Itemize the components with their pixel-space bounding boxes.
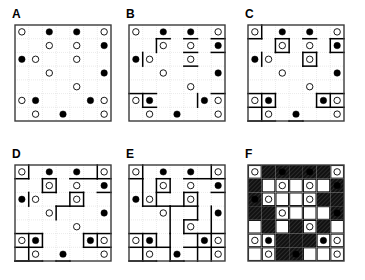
- dot-filled: [306, 29, 312, 35]
- dot-filled: [101, 210, 107, 216]
- dot-open: [306, 83, 312, 89]
- dot-filled: [215, 210, 221, 216]
- dot-filled: [19, 196, 25, 202]
- dot-filled: [60, 251, 66, 257]
- dot-open: [146, 196, 152, 202]
- dot-filled: [101, 42, 107, 48]
- dot-filled: [46, 169, 52, 175]
- dot-open: [265, 56, 271, 62]
- dot-filled: [101, 182, 107, 188]
- dot-open: [101, 251, 107, 257]
- dot-filled: [87, 97, 93, 103]
- dot-filled: [73, 169, 79, 175]
- dot-open: [160, 42, 166, 48]
- dot-open: [32, 56, 38, 62]
- dot-open: [32, 196, 38, 202]
- dot-open: [46, 182, 52, 188]
- dot-open: [73, 196, 79, 202]
- dot-open: [252, 169, 258, 175]
- dot-filled: [160, 169, 166, 175]
- dot-open: [73, 56, 79, 62]
- dot-filled: [201, 97, 207, 103]
- dot-open: [334, 251, 340, 257]
- dot-open: [160, 182, 166, 188]
- grid-d: ab: [14, 164, 112, 262]
- dot-open: [146, 111, 152, 117]
- dot-open: [146, 56, 152, 62]
- dot-open: [279, 210, 285, 216]
- dot-filled: [293, 251, 299, 257]
- dot-open: [160, 210, 166, 216]
- dot-open: [19, 29, 25, 35]
- dot-filled: [215, 182, 221, 188]
- dot-open: [187, 42, 193, 48]
- dot-filled: [101, 70, 107, 76]
- grid-a: [14, 24, 112, 122]
- dot-filled: [320, 237, 326, 243]
- dot-open: [73, 83, 79, 89]
- dot-filled: [32, 97, 38, 103]
- panel-label-b: B: [126, 8, 135, 20]
- panel-label-a: A: [12, 8, 21, 20]
- dot-open: [306, 223, 312, 229]
- panel-d: D ab: [10, 148, 120, 272]
- dot-filled: [187, 29, 193, 35]
- dot-open: [279, 182, 285, 188]
- dot-filled: [87, 237, 93, 243]
- dot-filled: [306, 169, 312, 175]
- dot-open: [133, 97, 139, 103]
- dot-open: [19, 97, 25, 103]
- dot-filled: [265, 237, 271, 243]
- dot-open: [215, 169, 221, 175]
- grid-svg-e: [128, 164, 226, 262]
- dot-open: [334, 29, 340, 35]
- dot-filled: [73, 29, 79, 35]
- dot-open: [265, 251, 271, 257]
- dot-open: [32, 251, 38, 257]
- dot-filled: [252, 196, 258, 202]
- dot-open: [334, 97, 340, 103]
- dot-open: [32, 111, 38, 117]
- dot-open: [101, 111, 107, 117]
- dot-open: [160, 70, 166, 76]
- grid-svg-a: [14, 24, 112, 122]
- dot-open: [187, 56, 193, 62]
- dot-open: [306, 196, 312, 202]
- dot-filled: [320, 97, 326, 103]
- dot-open: [215, 111, 221, 117]
- dot-filled: [334, 182, 340, 188]
- panel-label-e: E: [126, 148, 134, 160]
- grid-svg-f: [247, 164, 345, 262]
- dot-filled: [187, 169, 193, 175]
- dot-open: [101, 97, 107, 103]
- dot-open: [133, 29, 139, 35]
- dot-open: [215, 251, 221, 257]
- dot-filled: [293, 111, 299, 117]
- dot-open: [334, 169, 340, 175]
- panel-label-c: C: [245, 8, 254, 20]
- grid-svg-b: [128, 24, 226, 122]
- dot-open: [73, 42, 79, 48]
- dot-open: [215, 29, 221, 35]
- dot-open: [306, 56, 312, 62]
- dot-open: [334, 111, 340, 117]
- panel-e: E: [124, 148, 234, 272]
- dot-open: [265, 196, 271, 202]
- dot-open: [73, 182, 79, 188]
- dot-filled: [201, 237, 207, 243]
- dot-open: [187, 182, 193, 188]
- dot-filled: [174, 251, 180, 257]
- grid-b: [128, 24, 226, 122]
- dot-open: [101, 169, 107, 175]
- dot-open: [187, 196, 193, 202]
- dot-filled: [174, 111, 180, 117]
- dot-open: [19, 237, 25, 243]
- dot-filled: [133, 196, 139, 202]
- dot-open: [215, 237, 221, 243]
- dot-open: [252, 97, 258, 103]
- dot-filled: [279, 29, 285, 35]
- dot-open: [46, 70, 52, 76]
- dot-filled: [146, 97, 152, 103]
- dot-filled: [60, 111, 66, 117]
- dot-open: [306, 42, 312, 48]
